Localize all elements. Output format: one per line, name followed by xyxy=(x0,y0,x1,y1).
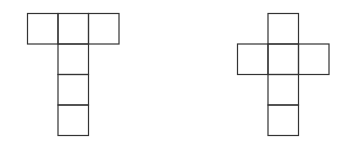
net-square xyxy=(58,44,89,75)
diagram-canvas xyxy=(0,0,351,148)
cross-shaped-net xyxy=(238,14,330,136)
net-square xyxy=(238,44,269,75)
net-square xyxy=(89,14,120,45)
net-square xyxy=(58,75,89,106)
net-square xyxy=(299,44,330,75)
net-square xyxy=(268,75,299,106)
net-square xyxy=(268,14,299,45)
net-square xyxy=(58,14,89,45)
net-square xyxy=(58,105,89,136)
net-square xyxy=(268,44,299,75)
net-square xyxy=(28,14,59,45)
t-shaped-net xyxy=(28,14,120,136)
net-square xyxy=(268,105,299,136)
